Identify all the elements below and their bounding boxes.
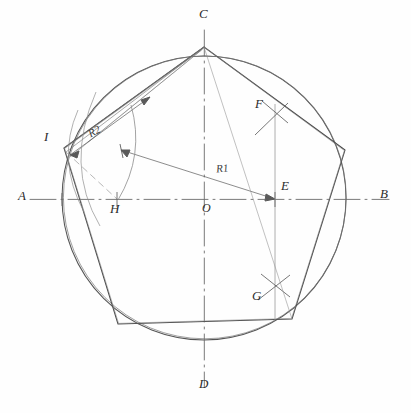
arcs-near-vertex-I [68, 92, 100, 226]
point-label-I: I [44, 129, 49, 145]
dimension-R1 [120, 144, 275, 201]
dimension-label-R1: R1 [215, 161, 228, 174]
point-label-O: O [202, 201, 211, 216]
point-label-H: H [110, 201, 120, 217]
point-label-C: C [199, 6, 208, 22]
arc-cross-mark-G [258, 274, 290, 300]
chord-C-to-I-strokes [64, 47, 204, 157]
point-label-G: G [252, 288, 262, 304]
pentagon-construction-figure: A B C D E F G H I O R1 R2 [0, 0, 411, 413]
point-label-A: A [18, 188, 26, 204]
chord-C-to-lower-right [204, 47, 292, 319]
construction-line-I-to-H [66, 152, 117, 199]
point-label-E: E [281, 178, 289, 194]
point-label-B: B [380, 186, 388, 202]
point-label-D: D [199, 376, 209, 392]
point-label-F: F [255, 96, 263, 112]
